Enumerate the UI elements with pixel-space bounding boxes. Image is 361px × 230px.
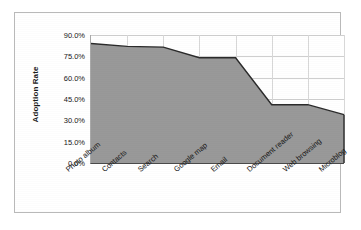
- y-axis-tick-label: 45.0%: [64, 95, 85, 104]
- y-axis-tick-label: 60.0%: [64, 73, 85, 82]
- y-axis-title: Adoption Rate: [29, 39, 43, 149]
- y-axis-tick-labels: 0.0%15.0%30.0%45.0%60.0%75.0%90.0%: [43, 31, 87, 165]
- y-axis-title-label: Adoption Rate: [32, 66, 41, 122]
- x-axis-tick-labels: Photo albumContactsSearchGoogle mapEmail…: [90, 165, 343, 223]
- y-axis-tick-label: 15.0%: [64, 137, 85, 146]
- y-axis-tick-label: 90.0%: [64, 31, 85, 40]
- y-axis-tick-label: 75.0%: [64, 52, 85, 61]
- area-series: [91, 35, 344, 163]
- chart-frame: Adoption Rate 0.0%15.0%30.0%45.0%60.0%75…: [14, 12, 341, 213]
- y-axis-tick-label: 30.0%: [64, 116, 85, 125]
